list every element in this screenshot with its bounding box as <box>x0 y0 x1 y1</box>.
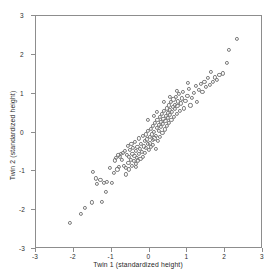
y-tick-label: -3 <box>19 245 25 252</box>
data-point <box>178 101 182 105</box>
data-point <box>124 172 128 176</box>
data-point <box>90 200 94 204</box>
y-tick-label: 3 <box>20 12 24 19</box>
data-point <box>158 135 162 139</box>
data-point <box>187 87 191 91</box>
x-tick-label: -2 <box>70 253 76 260</box>
x-tick-mark <box>73 248 74 252</box>
y-tick-mark <box>31 209 35 210</box>
data-point <box>111 171 115 175</box>
y-tick-mark <box>31 132 35 133</box>
data-point <box>163 127 167 131</box>
data-point <box>79 212 83 216</box>
data-point <box>186 81 190 85</box>
x-tick-mark <box>186 248 187 252</box>
data-point <box>155 110 159 114</box>
data-point <box>183 99 187 103</box>
data-point <box>227 48 231 52</box>
data-point <box>95 182 99 186</box>
data-point <box>234 36 238 40</box>
y-tick-mark <box>31 93 35 94</box>
data-point <box>133 140 137 144</box>
x-tick-mark <box>35 248 36 252</box>
data-point <box>94 176 98 180</box>
data-point <box>156 139 160 143</box>
x-tick-mark <box>262 248 263 252</box>
data-point <box>100 200 104 204</box>
x-tick-label: 2 <box>222 253 226 260</box>
data-point <box>181 90 185 94</box>
data-point <box>110 181 114 185</box>
data-point <box>215 78 219 82</box>
y-tick-label: 0 <box>20 128 24 135</box>
data-point <box>200 90 204 94</box>
data-point <box>108 166 112 170</box>
data-point <box>120 158 124 162</box>
x-tick-mark <box>111 248 112 252</box>
y-tick-mark <box>31 15 35 16</box>
data-point <box>181 106 185 110</box>
data-point <box>104 189 108 193</box>
data-point <box>225 61 229 65</box>
data-point <box>83 206 87 210</box>
data-point <box>209 70 213 74</box>
data-point <box>141 154 145 158</box>
data-point <box>153 147 157 151</box>
x-axis-label: Twin 1 (standardized height) <box>0 261 276 268</box>
data-point <box>188 103 192 107</box>
data-point <box>160 131 164 135</box>
plot-frame <box>35 15 262 248</box>
scatter-plot: -3-2-10123 -3-2-10123 Twin 1 (standardiz… <box>0 0 276 278</box>
data-point <box>206 76 210 80</box>
x-tick-mark <box>149 248 150 252</box>
data-point <box>195 100 199 104</box>
data-point <box>192 91 196 95</box>
y-tick-label: -1 <box>19 167 25 174</box>
x-tick-label: 1 <box>184 253 188 260</box>
y-tick-mark <box>31 54 35 55</box>
y-tick-mark <box>31 248 35 249</box>
x-tick-label: 3 <box>260 253 264 260</box>
data-point <box>134 165 138 169</box>
y-tick-label: 2 <box>20 50 24 57</box>
data-point <box>146 118 150 122</box>
data-point <box>117 165 121 169</box>
y-tick-label: -2 <box>19 206 25 213</box>
y-axis-label: Twin 2 (standardized height) <box>9 66 16 206</box>
x-tick-label: 0 <box>147 253 151 260</box>
data-point <box>91 170 95 174</box>
data-point <box>162 100 166 104</box>
data-points-layer <box>36 16 261 247</box>
data-point <box>190 95 194 99</box>
y-tick-label: 1 <box>20 89 24 96</box>
data-point <box>68 220 72 224</box>
data-point <box>127 167 131 171</box>
x-tick-label: -1 <box>108 253 114 260</box>
y-tick-mark <box>31 170 35 171</box>
data-point <box>202 80 206 84</box>
x-tick-mark <box>224 248 225 252</box>
data-point <box>221 71 225 75</box>
x-tick-label: -3 <box>32 253 38 260</box>
